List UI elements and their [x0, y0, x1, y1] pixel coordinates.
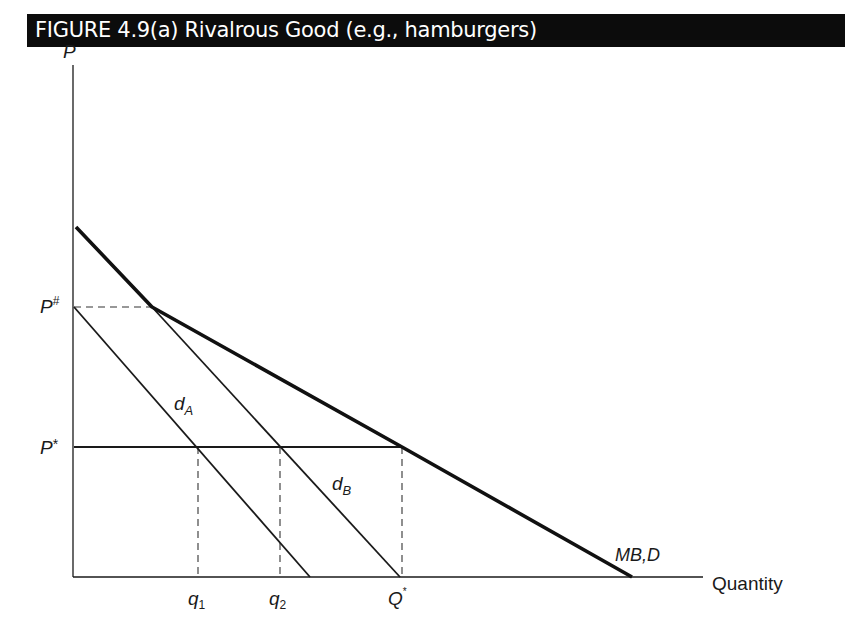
market-demand-label: MB,D — [615, 545, 660, 565]
chart-canvas: P Quantity P# P* q1 q2 Q* dA dB MB,D — [0, 0, 845, 636]
demand-curve-a — [74, 307, 310, 577]
q1-label: q1 — [188, 588, 206, 612]
p-hash-label: P# — [40, 294, 60, 317]
y-axis-label: P — [63, 41, 76, 62]
demand-a-label: dA — [174, 393, 193, 418]
q2-label: q2 — [269, 588, 287, 612]
p-star-label: P* — [40, 436, 59, 458]
demand-curve-b — [152, 307, 400, 577]
demand-b-label: dB — [332, 473, 352, 498]
x-axis-label: Quantity — [712, 573, 783, 594]
qstar-label: Q* — [388, 586, 407, 609]
market-demand-curve — [76, 227, 632, 577]
